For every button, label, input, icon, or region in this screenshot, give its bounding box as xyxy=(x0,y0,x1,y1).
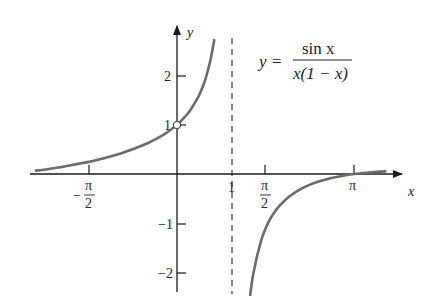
function-graph: x y 2 1 −1 −2 − π 2 1 π 2 π xyxy=(0,0,448,296)
formula-lhs: y = xyxy=(257,52,282,71)
x-tick-den-neg-pi-half: 2 xyxy=(85,196,92,211)
y-tick-label-neg2: −2 xyxy=(158,266,173,281)
formula: y = sin x x(1 − x) xyxy=(257,39,352,83)
open-circle-marker xyxy=(173,121,180,128)
y-ticks: 2 1 −1 −2 xyxy=(158,69,186,281)
y-tick-label-2: 2 xyxy=(164,69,171,84)
y-tick-label-neg1: −1 xyxy=(158,217,173,232)
curve-right-branch xyxy=(250,171,385,295)
x-axis-label: x xyxy=(407,184,415,199)
y-axis-label: y xyxy=(185,25,194,40)
formula-denominator: x(1 − x) xyxy=(292,64,348,83)
x-tick-label-pi: π xyxy=(349,178,356,193)
x-tick-sign-neg: − xyxy=(73,188,81,203)
x-ticks: − π 2 1 π 2 π xyxy=(73,165,356,211)
x-tick-num-neg-pi-half: π xyxy=(85,178,92,193)
formula-numerator: sin x xyxy=(302,39,335,58)
x-tick-den-pi-half: 2 xyxy=(261,196,268,211)
curve-left-branch xyxy=(36,40,214,171)
x-tick-num-pi-half: π xyxy=(261,178,268,193)
